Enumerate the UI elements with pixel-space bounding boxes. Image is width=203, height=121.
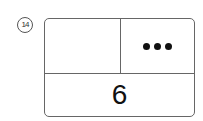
question-number: 14	[17, 17, 33, 33]
dot-icon	[165, 43, 172, 50]
number-bond-box: 6	[44, 18, 195, 117]
dot-icon	[143, 43, 150, 50]
top-right-cell	[121, 19, 194, 73]
bottom-total-cell: 6	[45, 74, 194, 116]
top-left-cell[interactable]	[45, 19, 120, 73]
dot-icon	[154, 43, 161, 50]
three-dots-icon	[143, 43, 172, 50]
